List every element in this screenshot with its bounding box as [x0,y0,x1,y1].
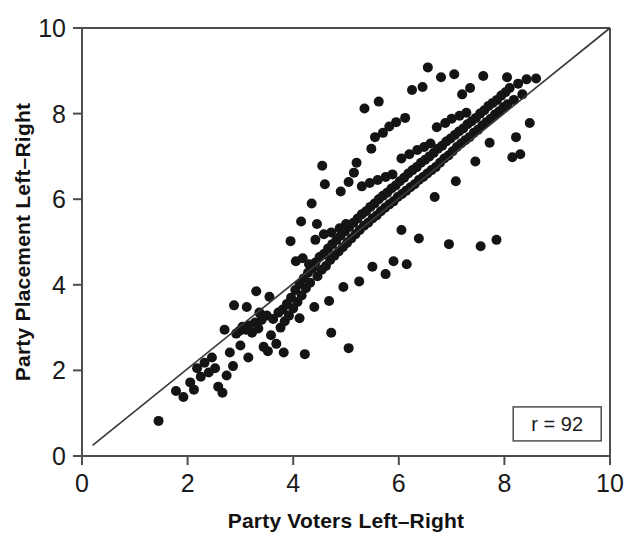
data-point [444,239,454,249]
data-point [389,256,399,266]
data-point [418,82,428,92]
data-point [457,89,467,99]
data-point [414,234,424,244]
data-point [243,353,253,363]
data-point [491,235,501,245]
data-point [391,117,401,127]
data-point [478,71,488,81]
data-point [354,276,364,286]
data-point [513,79,523,89]
data-point [507,152,517,162]
data-point [396,225,406,235]
data-point [326,328,336,338]
x-tick-label-10: 10 [596,469,624,497]
y-tick-label-0: 0 [52,442,66,470]
data-point-group [154,62,542,426]
data-point [423,62,433,72]
regression-line [93,28,610,445]
x-tick-label-6: 6 [392,469,406,497]
data-point [320,179,330,189]
x-tick-label-2: 2 [181,469,195,497]
data-point [263,346,273,356]
x-tick-label-0: 0 [75,469,89,497]
x-tick-labels: 0246810 [75,469,624,497]
annotation-group: r = 92 [513,407,601,441]
data-point [349,168,359,178]
data-point [505,83,515,93]
y-tick-label-4: 4 [52,271,66,299]
data-point [359,103,369,113]
data-point [338,282,348,292]
data-point [449,69,459,79]
data-point [310,235,320,245]
data-point [402,259,412,269]
data-point [154,416,164,426]
data-point [336,187,346,197]
chart-canvas: 0246810 0246810 r = 92 Party Voters Left… [0,0,630,543]
data-point [470,157,480,167]
data-point [387,169,397,179]
data-point [271,339,281,349]
data-point [525,118,535,128]
data-point [522,74,532,84]
data-point [430,192,440,202]
y-tick-labels: 0246810 [38,14,66,470]
data-point [217,388,227,398]
y-tick-label-6: 6 [52,185,66,213]
data-point [229,300,239,310]
y-tick-label-10: 10 [38,14,66,42]
x-tick-label-4: 4 [286,469,300,497]
data-point [407,85,417,95]
data-point [485,138,495,148]
data-point [400,113,410,123]
data-point [296,216,306,226]
data-point [222,371,232,381]
data-point [326,228,336,238]
data-point [286,236,296,246]
data-point [312,219,322,229]
x-tick-label-8: 8 [497,469,511,497]
data-point [531,74,541,84]
data-point [381,269,391,279]
data-point [465,83,475,93]
data-point [300,349,310,359]
data-point [220,325,230,335]
regression-line-group [93,28,610,445]
data-point [317,161,327,171]
data-point [352,158,362,168]
data-point [251,286,261,296]
y-tick-label-8: 8 [52,100,66,128]
y-tick-label-2: 2 [52,356,66,384]
data-point [189,385,199,395]
y-axis-title: Party Placement Left–Right [11,103,34,381]
data-point [253,323,263,333]
data-point [225,347,235,357]
data-point [309,302,319,312]
data-point [432,122,442,132]
data-point [279,347,289,357]
data-point [367,262,377,272]
data-point [344,177,354,187]
data-point [207,353,217,363]
x-axis-title: Party Voters Left–Right [228,509,464,532]
data-point [374,97,384,107]
data-point [344,343,354,353]
data-point [436,72,446,82]
data-point [476,241,486,251]
data-point [451,176,461,186]
data-point [295,313,305,323]
data-point [242,302,252,312]
data-point [178,392,188,402]
data-point [366,144,376,154]
data-point [210,363,220,373]
data-point [461,108,471,118]
data-point [324,296,334,306]
scatter-plot-figure: 0246810 0246810 r = 92 Party Voters Left… [0,0,630,543]
data-point [266,330,276,340]
data-point [511,132,521,142]
data-point [307,198,317,208]
data-point [502,72,512,82]
data-point [235,341,245,351]
correlation-box-text: r = 92 [531,413,583,435]
data-point [228,361,238,371]
